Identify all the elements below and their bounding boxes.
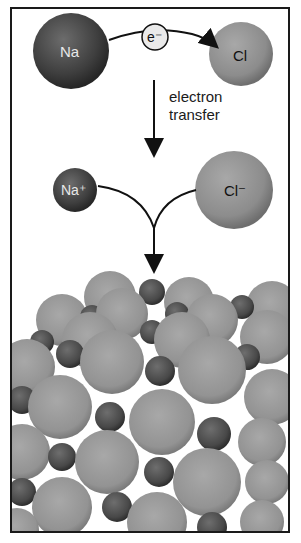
diagram-canvas <box>12 9 290 533</box>
chlorine-label: Cl <box>233 48 247 63</box>
sodium-ion-label: Na⁺ <box>61 183 86 198</box>
electron-label: e⁻ <box>147 30 162 45</box>
step-label-line1: electron <box>169 88 222 105</box>
chloride-ion-label: Cl⁻ <box>224 183 246 198</box>
merge-curve-left <box>98 186 154 228</box>
nacl-lattice <box>12 271 290 533</box>
step-label-line2: transfer <box>169 106 220 123</box>
diagram-frame: Na Cl e⁻ electron transfer Na⁺ Cl⁻ <box>10 7 290 533</box>
merge-curve-right <box>154 190 196 228</box>
sodium-label: Na <box>60 44 79 59</box>
